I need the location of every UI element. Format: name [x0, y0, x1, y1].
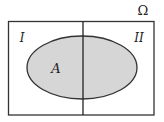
- venn-diagram: Ω I II A: [0, 0, 164, 122]
- universe-label: Ω: [138, 3, 149, 18]
- region-label-ii: II: [133, 31, 144, 45]
- region-label-i: I: [19, 31, 25, 45]
- set-a-label: A: [50, 61, 60, 76]
- set-a-ellipse: [27, 36, 137, 99]
